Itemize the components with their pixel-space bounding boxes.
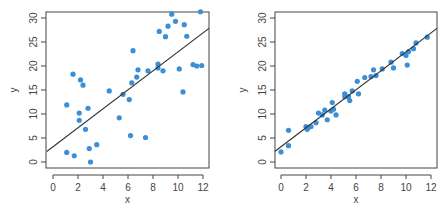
data-point: [107, 88, 112, 93]
data-point: [391, 65, 396, 70]
y-tick-label: 15: [257, 84, 268, 96]
data-point: [286, 128, 291, 133]
x-axis: 024681012x: [278, 175, 437, 205]
x-tick-label: 10: [400, 182, 412, 193]
data-point: [198, 9, 203, 14]
scatter-plot-1: 024681012x051015202530y: [8, 9, 209, 205]
x-axis-label: x: [125, 194, 130, 205]
data-point: [117, 115, 122, 120]
data-point: [165, 24, 170, 29]
y-tick-label: 10: [257, 108, 268, 120]
y-axis: 051015202530y: [8, 12, 46, 165]
data-point: [72, 153, 77, 158]
data-point: [127, 97, 132, 102]
y-tick-label: 25: [28, 36, 39, 48]
data-point: [87, 146, 92, 151]
data-point: [88, 159, 93, 164]
x-tick-label: 6: [353, 182, 359, 193]
data-point: [278, 149, 283, 154]
x-tick-label: 12: [425, 182, 437, 193]
data-point: [177, 66, 182, 71]
y-tick-label: 5: [28, 135, 39, 141]
scatter-plot-2: 024681012x051015202530y: [237, 12, 437, 205]
data-point: [330, 100, 335, 105]
data-point: [347, 98, 352, 103]
data-point: [70, 72, 75, 77]
regression-line: [275, 28, 438, 151]
x-tick-label: 10: [172, 182, 184, 193]
y-tick-label: 0: [257, 159, 268, 165]
data-point: [85, 106, 90, 111]
data-points: [278, 35, 429, 155]
data-point: [333, 112, 338, 117]
y-tick-label: 10: [28, 108, 39, 120]
x-tick-label: 8: [378, 182, 384, 193]
data-point: [129, 80, 134, 85]
scatter-plots: 024681012x051015202530y024681012x0510152…: [0, 0, 448, 216]
x-tick-label: 4: [328, 182, 334, 193]
y-axis-label: y: [237, 88, 248, 93]
x-tick-label: 2: [303, 182, 309, 193]
y-tick-label: 25: [257, 36, 268, 48]
y-tick-label: 30: [28, 12, 39, 24]
data-point: [163, 34, 168, 39]
x-tick-label: 12: [197, 182, 209, 193]
data-point: [143, 135, 148, 140]
data-point: [325, 117, 330, 122]
data-point: [362, 75, 367, 80]
data-point: [77, 118, 82, 123]
data-point: [371, 67, 376, 72]
data-point: [355, 79, 360, 84]
data-point: [83, 127, 88, 132]
x-tick-label: 6: [125, 182, 131, 193]
data-point: [184, 34, 189, 39]
data-point: [182, 22, 187, 27]
data-point: [160, 68, 165, 73]
data-point: [78, 77, 83, 82]
data-point: [80, 83, 85, 88]
figure: 024681012x051015202530y024681012x0510152…: [0, 0, 448, 216]
x-tick-label: 2: [75, 182, 81, 193]
data-point: [135, 67, 140, 72]
y-tick-label: 30: [257, 12, 268, 24]
data-point: [356, 91, 361, 96]
x-tick-label: 0: [278, 182, 284, 193]
data-point: [180, 89, 185, 94]
x-tick-label: 0: [50, 182, 56, 193]
data-point: [194, 63, 199, 68]
regression-line: [47, 28, 210, 151]
x-tick-label: 4: [100, 182, 106, 193]
x-tick-label: 8: [150, 182, 156, 193]
data-point: [64, 150, 69, 155]
data-point: [157, 29, 162, 34]
data-point: [134, 74, 139, 79]
data-point: [94, 142, 99, 147]
data-point: [64, 102, 69, 107]
x-axis-label: x: [354, 194, 359, 205]
data-point: [77, 110, 82, 115]
y-tick-label: 0: [28, 159, 39, 165]
data-point: [405, 62, 410, 67]
x-axis: 024681012x: [50, 175, 209, 205]
data-point: [128, 133, 133, 138]
data-points: [64, 9, 204, 164]
y-tick-label: 20: [257, 60, 268, 72]
data-point: [199, 63, 204, 68]
y-tick-label: 5: [257, 135, 268, 141]
data-point: [173, 19, 178, 24]
y-tick-label: 15: [28, 84, 39, 96]
y-tick-label: 20: [28, 60, 39, 72]
data-point: [286, 143, 291, 148]
y-axis-label: y: [8, 88, 19, 93]
data-point: [130, 48, 135, 53]
data-point: [169, 12, 174, 17]
y-axis: 051015202530y: [237, 12, 275, 165]
